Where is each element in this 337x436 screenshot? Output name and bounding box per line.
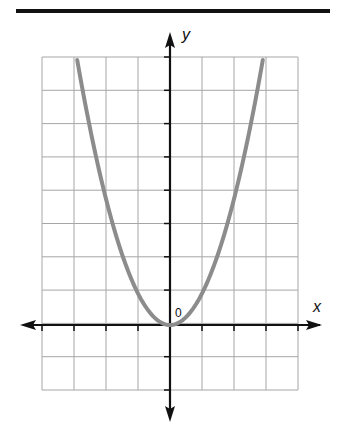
coordinate-plane (0, 0, 337, 436)
x-axis-label: x (313, 298, 321, 316)
origin-label: 0 (175, 306, 182, 320)
y-axis-label: y (182, 26, 190, 44)
